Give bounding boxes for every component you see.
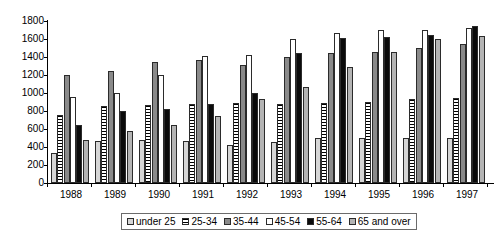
x-axis-tick <box>399 183 400 187</box>
y-axis-tick-label: 1400 <box>22 52 44 62</box>
bar <box>447 138 453 183</box>
bar <box>409 99 415 183</box>
bar <box>208 104 214 183</box>
bar-group <box>271 21 309 183</box>
y-axis-tick <box>44 129 48 130</box>
bar <box>290 39 296 183</box>
y-axis-tick-label: 600 <box>27 124 44 134</box>
bar-group <box>95 21 133 183</box>
bar <box>453 98 459 184</box>
bar <box>202 56 208 183</box>
legend-label: 35-44 <box>233 217 259 227</box>
plot-area <box>47 21 493 183</box>
y-axis-tick <box>44 147 48 148</box>
bar <box>334 33 340 183</box>
bar <box>340 38 346 183</box>
x-axis-tick <box>47 183 48 187</box>
x-axis-tick-label: 1988 <box>48 189 94 200</box>
legend-swatch-icon <box>127 218 134 225</box>
bar <box>139 140 145 183</box>
bar-group <box>359 21 397 183</box>
bar <box>284 57 290 183</box>
bar <box>347 67 353 183</box>
x-axis-tick <box>267 183 268 187</box>
y-axis-tick <box>44 93 48 94</box>
chart-legend: under 2525-3435-4445-5455-6465 and over <box>121 213 417 230</box>
bar <box>296 53 302 184</box>
legend-swatch-icon <box>266 218 273 225</box>
bar-group <box>315 21 353 183</box>
bar <box>101 106 107 183</box>
bar <box>164 109 170 183</box>
legend-label: 25-34 <box>191 217 217 227</box>
legend-label: 55-64 <box>316 217 342 227</box>
x-axis-tick-label: 1996 <box>400 189 446 200</box>
legend-item: under 25 <box>127 217 175 227</box>
bar <box>472 26 478 183</box>
bar <box>108 71 114 184</box>
x-axis-tick-label: 1997 <box>444 189 490 200</box>
y-axis-labels: 020040060080010001200140016001800 <box>0 0 44 205</box>
bar <box>359 138 365 183</box>
bar <box>64 75 70 183</box>
bar <box>145 105 151 183</box>
bar <box>95 141 101 183</box>
legend-item: 35-44 <box>224 217 259 227</box>
bar <box>51 153 57 183</box>
x-axis-tick-label: 1993 <box>268 189 314 200</box>
bar <box>83 140 89 183</box>
bar <box>127 131 133 183</box>
x-axis-tick-label: 1991 <box>180 189 226 200</box>
bar <box>391 52 397 183</box>
legend-label: under 25 <box>136 217 175 227</box>
bar <box>233 103 239 183</box>
y-axis-tick-label: 1800 <box>22 16 44 26</box>
bar-group <box>447 21 485 183</box>
x-axis-tick <box>487 183 488 187</box>
bar-chart: 020040060080010001200140016001800 198819… <box>0 0 502 245</box>
legend-item: 45-54 <box>266 217 301 227</box>
bar <box>227 145 233 183</box>
bar <box>183 141 189 183</box>
bar <box>259 99 265 183</box>
bar <box>171 125 177 184</box>
y-axis-tick-label: 1200 <box>22 70 44 80</box>
bar <box>252 93 258 183</box>
legend-item: 55-64 <box>307 217 342 227</box>
x-axis-tick <box>223 183 224 187</box>
x-axis-tick <box>443 183 444 187</box>
y-axis-tick <box>44 75 48 76</box>
bar <box>240 65 246 183</box>
legend-label: 45-54 <box>275 217 301 227</box>
y-axis-tick <box>44 39 48 40</box>
x-axis-tick-label: 1995 <box>356 189 402 200</box>
legend-swatch-icon <box>307 218 314 225</box>
bar <box>57 115 63 183</box>
bar <box>120 111 126 183</box>
bar <box>189 104 195 183</box>
bar <box>152 62 158 183</box>
y-axis-tick-label: 1000 <box>22 88 44 98</box>
bar <box>328 53 334 184</box>
x-axis-tick <box>91 183 92 187</box>
bar-group <box>227 21 265 183</box>
bar-group <box>403 21 441 183</box>
bar <box>460 44 466 183</box>
bar <box>365 102 371 183</box>
bar <box>435 39 441 183</box>
y-axis-tick-label: 400 <box>27 142 44 152</box>
x-axis-tick <box>135 183 136 187</box>
bar <box>321 103 327 183</box>
legend-item: 65 and over <box>349 217 411 227</box>
bar <box>422 30 428 183</box>
bar <box>70 97 76 183</box>
bar <box>466 28 472 183</box>
bar <box>114 93 120 183</box>
bar <box>277 104 283 183</box>
x-axis-tick-label: 1989 <box>92 189 138 200</box>
x-axis-tick-label: 1994 <box>312 189 358 200</box>
bar <box>384 37 390 183</box>
bar <box>271 142 277 183</box>
x-axis-tick-label: 1992 <box>224 189 270 200</box>
bar <box>303 87 309 183</box>
